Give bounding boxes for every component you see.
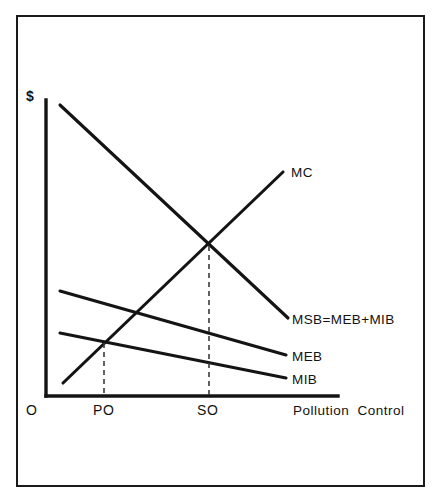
x-axis-title: Pollution Control xyxy=(293,403,405,418)
y-axis-unit-label: $ xyxy=(26,88,34,104)
figure-page: $ MC MSB=MEB+MIB MEB MIB O PO SO Polluti… xyxy=(0,0,442,502)
economics-chart: $ MC MSB=MEB+MIB MEB MIB O PO SO Polluti… xyxy=(0,0,442,502)
curve-mc xyxy=(63,172,283,383)
curve-meb xyxy=(60,291,286,355)
curve-msb xyxy=(60,105,288,318)
curve-label-mib: MIB xyxy=(292,372,317,387)
x-tick-label-so: SO xyxy=(197,402,218,418)
curve-label-mc: MC xyxy=(291,165,313,180)
curve-label-msb: MSB=MEB+MIB xyxy=(292,312,395,327)
curve-label-meb: MEB xyxy=(292,349,322,364)
x-tick-label-po: PO xyxy=(93,402,114,418)
x-axis-origin-label: O xyxy=(26,402,38,418)
